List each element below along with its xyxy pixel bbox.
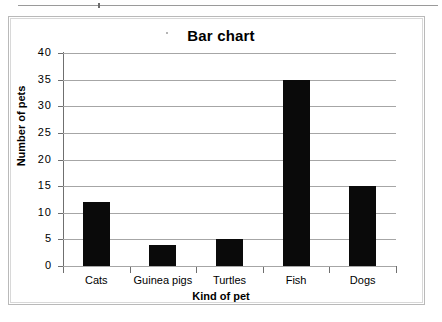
y-axis-tick-label: 5 [18,232,52,244]
y-axis-tick-label: 15 [18,179,52,191]
y-axis-tick-label: 25 [18,126,52,138]
page-top-rule-tick [98,3,100,8]
y-axis-tick [58,106,63,107]
gridline [63,80,396,81]
x-axis-tick [130,267,131,273]
x-axis-category-label: Dogs [329,274,396,286]
y-axis-tick-label: 35 [18,73,52,85]
x-axis-category-label: Turtles [196,274,263,286]
y-axis-tick-label: 10 [18,206,52,218]
gridline [63,106,396,107]
y-axis-tick-label: 30 [18,99,52,111]
y-axis-tick-label: 0 [18,259,52,271]
x-axis-tick [196,267,197,273]
y-axis-tick [58,239,63,240]
gridline [63,186,396,187]
bar [149,245,176,266]
bar [349,186,376,266]
y-axis-tick [58,133,63,134]
gridline [63,213,396,214]
x-axis-category-label: Fish [263,274,330,286]
y-axis-tick-label: 40 [18,46,52,58]
bar [283,80,310,266]
x-axis-title: Kind of pet [0,290,442,302]
x-axis-tick [63,267,64,273]
bar [216,239,243,266]
y-axis-tick [58,213,63,214]
y-axis-tick [58,186,63,187]
x-axis-tick [263,267,264,273]
x-axis-category-label: Guinea pigs [130,274,197,286]
gridline [63,160,396,161]
title-speck [166,32,168,34]
x-axis-tick [396,267,397,273]
x-axis-category-label: Cats [63,274,130,286]
y-axis-tick [58,160,63,161]
x-axis-tick [329,267,330,273]
plot-area [63,53,396,266]
gridline [63,266,396,267]
y-axis-tick [58,53,63,54]
gridline [63,53,396,54]
page-top-rule [18,5,438,6]
chart-title: Bar chart [0,27,442,44]
bar [83,202,110,266]
gridline [63,133,396,134]
y-axis-tick [58,80,63,81]
y-axis-tick-label: 20 [18,153,52,165]
